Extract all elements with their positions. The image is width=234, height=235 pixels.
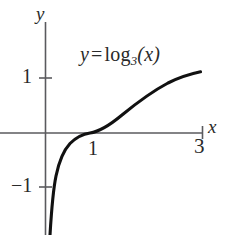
x-axis-label: x — [208, 117, 216, 136]
log-curve — [50, 72, 201, 235]
equation-argument: (x) — [137, 43, 160, 65]
logarithm-graph-figure: y x y=log3(x) 1 −1 1 3 — [0, 0, 234, 235]
equation-lhs: y — [80, 43, 89, 65]
equation-operator: = — [89, 43, 104, 65]
equation-annotation: y=log3(x) — [80, 44, 160, 68]
y-axis-label: y — [36, 4, 44, 23]
y-tick-label-one: 1 — [22, 66, 32, 86]
plot-canvas — [0, 0, 234, 235]
x-tick-label-one: 1 — [88, 138, 98, 158]
equation-function: log — [105, 43, 131, 65]
x-tick-label-three: 3 — [194, 136, 205, 157]
y-tick-label-negative-one: −1 — [11, 175, 32, 195]
